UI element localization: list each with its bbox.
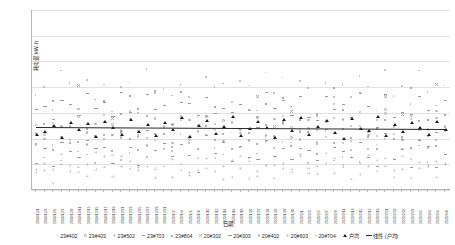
data-point [35,109,38,110]
legend-item[interactable]: 23#402 [57,233,78,239]
data-point [410,103,412,105]
x-axis-tick-mark [333,190,334,192]
legend-label: 23#402 [60,233,77,239]
legend-item[interactable]: 20#704 [315,233,336,239]
legend-item[interactable]: 20#302 [199,233,221,239]
data-point [265,72,267,74]
data-point [111,154,114,157]
data-point [376,148,378,150]
data-point [111,175,114,178]
data-point [367,154,370,157]
data-point [197,117,199,119]
data-point [35,171,38,174]
data-point-household-average [86,122,90,125]
data-point [222,125,224,127]
legend-label: 20#603 [291,233,308,239]
x-axis-tick-mark [444,190,445,192]
legend-item[interactable]: 线性 (户均) [366,232,399,239]
data-point [129,147,132,148]
data-point [427,91,429,93]
legend-item[interactable]: 户均 [343,232,359,239]
data-point [111,134,113,136]
data-point [231,176,234,179]
data-point [325,119,327,121]
data-point [427,110,430,111]
data-point [94,148,97,149]
data-point [418,167,421,170]
data-point [154,90,156,92]
data-point [418,114,420,116]
data-point-household-average [137,130,141,133]
legend-item[interactable]: 23#804 [171,233,192,239]
data-point [205,76,207,78]
data-point [239,146,242,147]
data-point [342,151,345,152]
data-point [188,110,190,112]
data-point [180,133,182,135]
data-point [239,155,242,158]
legend-item[interactable]: 23#703 [142,233,165,239]
data-point [359,75,361,77]
data-point [342,166,345,169]
data-point [111,150,113,152]
data-point [256,170,259,173]
data-point [248,132,250,134]
data-point-household-average [393,123,397,126]
data-point [282,141,284,143]
data-point [401,155,404,158]
data-point [60,153,63,156]
x-axis-tick-mark [248,190,249,192]
data-point [299,131,301,133]
legend-item[interactable]: 23#403 [84,233,106,239]
legend-item[interactable]: 20#303 [228,233,251,239]
x-axis-tick-mark [265,190,266,192]
x-axis-tick-mark [222,190,223,192]
data-point [69,170,72,173]
data-point [205,115,207,117]
data-point [222,108,225,109]
data-point [290,168,293,171]
data-point [171,158,174,161]
data-point [435,176,438,179]
data-point [393,117,396,118]
data-point [350,117,353,118]
data-point [435,132,438,133]
data-point-household-average [350,117,354,120]
data-point [418,145,420,147]
data-point [376,135,378,137]
data-point [146,156,148,158]
data-point [103,166,106,169]
data-point [307,167,310,170]
data-point [35,144,37,146]
data-point [376,166,379,167]
data-point [171,124,174,125]
data-point [282,122,284,124]
data-point [384,108,386,110]
x-axis-tick-mark [214,190,215,192]
x-axis-tick-mark [205,190,206,192]
legend-marker-icon [57,235,59,237]
data-point-household-average [120,133,124,136]
x-axis-tick-mark [171,190,172,192]
chart-container: 耗电量 kW·h 05101520253035 2019/12/12019/12… [0,0,455,245]
data-point-household-average [325,119,329,122]
data-point [256,175,259,178]
legend-item[interactable]: 23#502 [113,233,135,239]
data-point [94,99,96,101]
data-point [427,135,429,137]
data-point-household-average [205,119,209,122]
data-point [94,123,96,125]
data-point [256,127,259,128]
data-point [60,70,62,72]
data-point [69,82,71,84]
x-axis-tick-mark [197,190,198,192]
data-point [137,135,139,137]
legend-item[interactable]: 20#603 [286,233,308,239]
data-point [299,153,302,156]
data-point [120,159,122,161]
data-point [86,140,89,141]
legend-item[interactable]: 20#402 [258,233,280,239]
data-point [180,144,183,145]
data-point [146,94,149,95]
data-point [427,146,429,148]
